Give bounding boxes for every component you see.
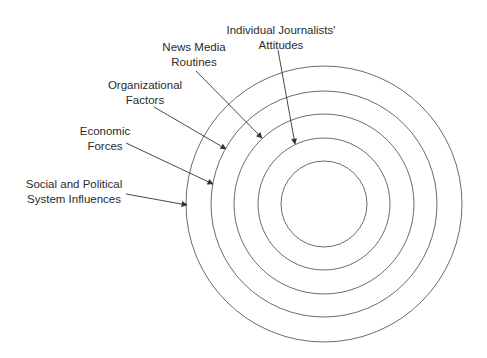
label-social-political-system-influences: Social and Political System Influences bbox=[26, 177, 123, 206]
label-economic-forces: Economic Forces bbox=[80, 124, 131, 153]
label-line: Factors bbox=[108, 93, 182, 108]
label-line: Attitudes bbox=[227, 38, 336, 53]
ring-circle bbox=[281, 161, 367, 247]
arrow-icon bbox=[154, 107, 226, 149]
label-line: Individual Journalists' bbox=[227, 23, 336, 38]
label-line: News Media bbox=[162, 40, 225, 55]
arrow-icon bbox=[126, 194, 187, 205]
label-line: Organizational bbox=[108, 78, 182, 93]
label-organizational-factors: Organizational Factors bbox=[108, 78, 182, 107]
ring-circle bbox=[234, 114, 414, 294]
arrow-icon bbox=[278, 50, 295, 144]
concentric-rings bbox=[186, 66, 462, 342]
label-news-media-routines: News Media Routines bbox=[162, 40, 225, 69]
label-line: Routines bbox=[162, 55, 225, 70]
label-line: Social and Political bbox=[26, 177, 123, 192]
ring-circle bbox=[186, 66, 462, 342]
label-arrows bbox=[126, 50, 295, 205]
arrow-icon bbox=[126, 143, 213, 184]
ring-circle bbox=[258, 138, 390, 270]
label-line: Economic bbox=[80, 124, 131, 139]
label-individual-journalists-attitudes: Individual Journalists' Attitudes bbox=[227, 23, 336, 52]
arrow-icon bbox=[196, 71, 262, 138]
ring-circle bbox=[211, 91, 437, 317]
label-line: System Influences bbox=[26, 192, 123, 207]
label-line: Forces bbox=[80, 139, 131, 154]
